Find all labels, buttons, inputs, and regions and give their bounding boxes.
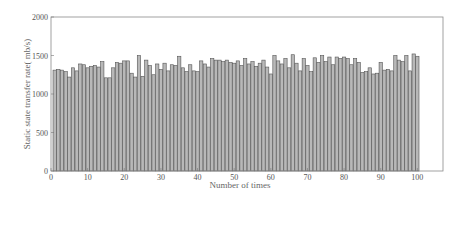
bar xyxy=(214,60,217,171)
bar xyxy=(211,59,214,171)
bar xyxy=(75,71,78,171)
bar xyxy=(134,77,137,171)
bar xyxy=(82,65,85,171)
x-tick-label: 70 xyxy=(303,173,311,182)
y-axis-title: Static state transfer rate( mb/s) xyxy=(22,39,32,149)
bar xyxy=(364,72,367,171)
bar xyxy=(225,60,228,171)
bar xyxy=(108,78,111,171)
bar xyxy=(90,66,93,171)
bar xyxy=(222,62,225,171)
bar xyxy=(126,61,129,171)
bar xyxy=(159,69,162,171)
bar xyxy=(178,56,181,171)
bar xyxy=(412,54,415,171)
bar xyxy=(196,72,199,171)
bar xyxy=(346,59,349,171)
bar xyxy=(266,67,269,171)
bar xyxy=(53,70,56,171)
bar xyxy=(280,64,283,171)
bar xyxy=(189,65,192,171)
bar xyxy=(233,63,236,171)
bar xyxy=(112,68,115,171)
bar xyxy=(269,74,272,171)
x-tick-label: 20 xyxy=(120,173,128,182)
bar xyxy=(148,66,151,171)
bar xyxy=(390,71,393,171)
bar xyxy=(298,71,301,171)
bar xyxy=(251,62,254,171)
bar xyxy=(405,56,408,172)
bar xyxy=(331,65,334,171)
bar xyxy=(145,60,148,171)
bar xyxy=(324,62,327,171)
bar xyxy=(207,67,210,171)
bar xyxy=(306,66,309,171)
bar xyxy=(368,68,371,171)
bar xyxy=(141,76,144,171)
bar xyxy=(60,70,63,171)
bar xyxy=(416,56,419,171)
bar xyxy=(342,57,345,171)
bar xyxy=(163,63,166,171)
bar xyxy=(295,63,298,171)
bar xyxy=(68,77,71,171)
bar xyxy=(86,68,89,171)
bar xyxy=(317,62,320,171)
bar xyxy=(123,61,126,171)
bar xyxy=(258,63,261,171)
bar xyxy=(401,62,404,171)
bar xyxy=(185,72,188,171)
bar xyxy=(276,61,279,171)
bar xyxy=(244,59,247,171)
bar xyxy=(379,62,382,171)
bar xyxy=(386,69,389,171)
bar xyxy=(101,62,104,171)
y-tick-label: 1000 xyxy=(32,90,48,99)
bar xyxy=(255,66,258,171)
bar xyxy=(247,64,250,171)
bar xyxy=(97,67,100,171)
bar xyxy=(174,66,177,171)
bar xyxy=(137,56,140,172)
bar xyxy=(262,60,265,171)
bar xyxy=(273,56,276,172)
x-axis-title: Number of times xyxy=(210,180,271,190)
bar-series xyxy=(53,54,419,171)
bar xyxy=(353,59,356,171)
bar xyxy=(357,62,360,171)
bar xyxy=(57,69,60,171)
bar xyxy=(181,68,184,171)
bar xyxy=(361,72,364,171)
bar xyxy=(313,58,316,171)
bar xyxy=(302,59,305,171)
bar xyxy=(335,57,338,171)
bar xyxy=(93,66,96,171)
bar xyxy=(200,61,203,171)
bar xyxy=(229,62,232,171)
bar xyxy=(284,59,287,171)
bar xyxy=(309,72,312,171)
x-tick-label: 80 xyxy=(340,173,348,182)
bar xyxy=(372,74,375,171)
bar xyxy=(394,56,397,172)
bar xyxy=(287,68,290,171)
x-tick-label: 0 xyxy=(49,173,53,182)
bar xyxy=(397,60,400,171)
bar xyxy=(170,65,173,171)
y-tick-label: 500 xyxy=(36,129,48,138)
x-tick-label: 40 xyxy=(194,173,202,182)
bar xyxy=(350,65,353,171)
bar xyxy=(192,71,195,171)
bar xyxy=(79,64,82,171)
bar xyxy=(130,73,133,171)
bar xyxy=(320,56,323,172)
y-tick-label: 1500 xyxy=(32,52,48,61)
bar xyxy=(236,61,239,171)
x-tick-label: 30 xyxy=(157,173,165,182)
bar xyxy=(167,71,170,171)
bar xyxy=(375,73,378,171)
bar xyxy=(104,78,107,171)
y-tick-label: 0 xyxy=(44,167,48,176)
x-tick-label: 90 xyxy=(377,173,385,182)
